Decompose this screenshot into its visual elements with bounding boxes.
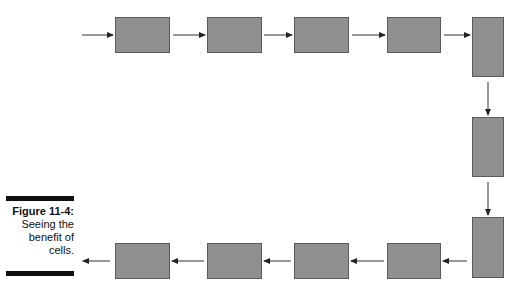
caption-bottom-rule [6, 271, 74, 276]
caption-line-2: benefit of [6, 231, 74, 244]
figure-label: Figure 11-4: [6, 205, 74, 218]
caption-top-rule [6, 196, 74, 201]
arrows [0, 0, 531, 295]
caption-line-3: cells. [6, 244, 74, 257]
caption-line-1: Seeing the [6, 218, 74, 231]
figure-caption: Figure 11-4: Seeing the benefit of cells… [6, 205, 74, 257]
